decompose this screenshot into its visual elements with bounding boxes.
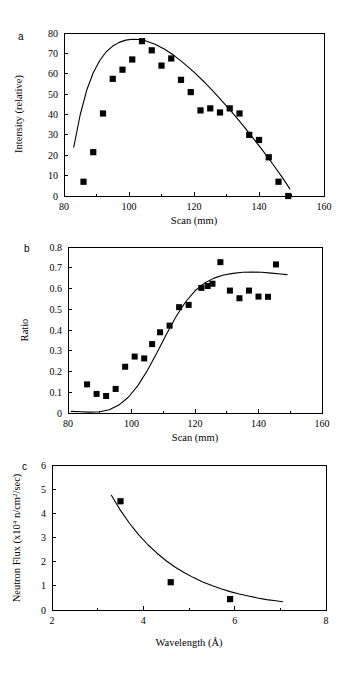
y-tick-label: 40 bbox=[48, 109, 58, 120]
data-point bbox=[90, 149, 96, 155]
data-point bbox=[113, 386, 119, 392]
data-point bbox=[132, 354, 138, 360]
data-point bbox=[149, 341, 155, 347]
data-point bbox=[157, 329, 163, 335]
x-tick-label: 80 bbox=[63, 418, 73, 429]
multi-panel-figure: a 0102030405060708080100120140160Scan (m… bbox=[0, 0, 348, 677]
data-point bbox=[167, 323, 173, 329]
y-tick-label: 6 bbox=[41, 460, 46, 471]
panel-a-letter: a bbox=[18, 31, 24, 42]
axis-frame bbox=[68, 247, 322, 413]
panel-a-plot-area: 0102030405060708080100120140160Scan (mm)… bbox=[13, 28, 332, 227]
y-tick-label: 0.8 bbox=[50, 242, 63, 253]
y-tick-label: 2 bbox=[41, 556, 46, 567]
data-point bbox=[198, 285, 204, 291]
axis-frame bbox=[52, 465, 326, 610]
x-tick-label: 120 bbox=[188, 418, 203, 429]
data-point bbox=[197, 107, 203, 113]
data-point bbox=[117, 498, 123, 504]
data-point bbox=[227, 105, 233, 111]
x-tick-label: 8 bbox=[324, 615, 329, 626]
y-tick-label: 70 bbox=[48, 48, 58, 59]
y-tick-label: 80 bbox=[48, 28, 58, 39]
y-axis-title: Neutron Flux (x104 n/cm2/sec) bbox=[11, 473, 23, 602]
data-point bbox=[129, 56, 135, 62]
data-point bbox=[119, 67, 125, 73]
x-tick-label: 80 bbox=[59, 201, 69, 212]
data-point bbox=[256, 137, 262, 143]
y-tick-label: 0.4 bbox=[50, 325, 63, 336]
data-point bbox=[285, 193, 291, 199]
data-point bbox=[80, 179, 86, 185]
y-tick-label: 0.3 bbox=[50, 345, 63, 356]
fit-curve bbox=[111, 495, 282, 602]
y-tick-label: 4 bbox=[41, 508, 46, 519]
y-tick-label: 10 bbox=[48, 170, 58, 181]
data-point bbox=[236, 295, 242, 301]
data-point bbox=[158, 63, 164, 69]
y-tick-label: 0 bbox=[41, 605, 46, 616]
y-tick-label: 50 bbox=[48, 89, 58, 100]
x-tick-label: 160 bbox=[317, 201, 332, 212]
panel-c-plot-area: 01234562468Wavelength (Å)Neutron Flux (x… bbox=[11, 460, 329, 649]
y-tick-label: 0.7 bbox=[50, 262, 63, 273]
data-point bbox=[103, 393, 109, 399]
x-tick-label: 100 bbox=[122, 201, 137, 212]
y-tick-label: 0.6 bbox=[50, 283, 63, 294]
y-tick-label: 0 bbox=[53, 191, 58, 202]
y-tick-label: 0.2 bbox=[50, 366, 63, 377]
panel-c-neutron-flux-vs-wavelength: c 01234562468Wavelength (Å)Neutron Flux … bbox=[0, 450, 348, 677]
y-tick-label: 3 bbox=[41, 532, 46, 543]
panel-c-letter: c bbox=[22, 461, 27, 472]
data-point bbox=[246, 288, 252, 294]
x-axis-title: Scan (mm) bbox=[171, 215, 218, 227]
y-tick-label: 0.5 bbox=[50, 304, 63, 315]
data-point bbox=[168, 55, 174, 61]
x-tick-label: 6 bbox=[232, 615, 237, 626]
fit-curve bbox=[74, 39, 290, 189]
panel-b-plot-area: 00.10.20.30.40.50.60.70.880100120140160S… bbox=[19, 242, 330, 444]
x-axis-title: Scan (mm) bbox=[172, 432, 219, 444]
data-point bbox=[178, 77, 184, 83]
y-tick-label: 1 bbox=[41, 580, 46, 591]
data-point bbox=[265, 294, 271, 300]
data-point bbox=[188, 89, 194, 95]
x-tick-label: 140 bbox=[251, 418, 266, 429]
fit-curve bbox=[71, 272, 287, 412]
data-point bbox=[256, 294, 262, 300]
data-point bbox=[209, 281, 215, 287]
panel-c-chart: c 01234562468Wavelength (Å)Neutron Flux … bbox=[0, 450, 348, 677]
data-point bbox=[246, 132, 252, 138]
x-tick-label: 2 bbox=[50, 615, 55, 626]
data-point bbox=[236, 110, 242, 116]
data-point bbox=[122, 364, 128, 370]
data-point bbox=[266, 154, 272, 160]
y-tick-label: 0 bbox=[57, 408, 62, 419]
data-point bbox=[227, 596, 233, 602]
data-point bbox=[141, 355, 147, 361]
y-tick-label: 5 bbox=[41, 484, 46, 495]
data-point bbox=[207, 105, 213, 111]
panel-a-chart: a 0102030405060708080100120140160Scan (m… bbox=[0, 0, 348, 228]
data-point bbox=[168, 579, 174, 585]
data-point bbox=[275, 179, 281, 185]
x-tick-label: 120 bbox=[187, 201, 202, 212]
data-point bbox=[227, 288, 233, 294]
x-tick-label: 160 bbox=[315, 418, 330, 429]
data-point bbox=[217, 109, 223, 115]
data-point bbox=[217, 259, 223, 265]
y-tick-label: 0.1 bbox=[50, 387, 63, 398]
panel-b-letter: b bbox=[24, 243, 30, 254]
data-point bbox=[100, 110, 106, 116]
panel-a-intensity-vs-scan: a 0102030405060708080100120140160Scan (m… bbox=[0, 0, 348, 228]
x-tick-label: 140 bbox=[252, 201, 267, 212]
data-point bbox=[110, 76, 116, 82]
x-tick-label: 100 bbox=[124, 418, 139, 429]
x-tick-label: 4 bbox=[141, 615, 146, 626]
y-tick-label: 30 bbox=[48, 129, 58, 140]
x-axis-title: Wavelength (Å) bbox=[155, 637, 223, 649]
data-point bbox=[149, 47, 155, 53]
panel-b-ratio-vs-scan: b 00.10.20.30.40.50.60.70.88010012014016… bbox=[0, 228, 348, 450]
data-point bbox=[273, 261, 279, 267]
data-point bbox=[94, 391, 100, 397]
